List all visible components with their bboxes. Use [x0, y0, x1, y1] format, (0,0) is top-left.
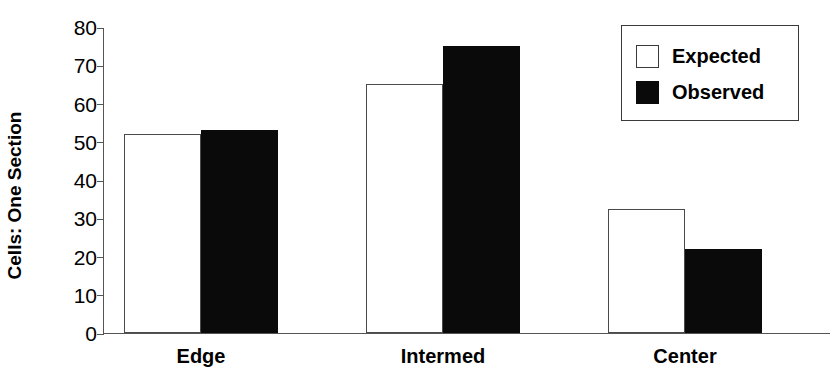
legend-label-expected: Expected [672, 45, 761, 68]
y-axis-tick [97, 257, 104, 258]
y-axis-tick-label: 60 [74, 94, 97, 115]
legend-item-expected: Expected [636, 38, 798, 74]
y-axis-tick [97, 334, 104, 335]
legend-swatch-observed-icon [636, 81, 659, 104]
bar-intermed-observed [443, 46, 520, 333]
bar-center-observed [685, 249, 762, 333]
y-axis-tick-label: 70 [74, 55, 97, 76]
y-axis-tick [97, 66, 104, 67]
legend-swatch-expected-icon [636, 45, 659, 68]
bar-intermed-expected [366, 84, 443, 333]
x-axis-label-intermed: Intermed [366, 345, 520, 368]
y-axis-tick [97, 104, 104, 105]
y-axis-tick-labels: 01020304050607080 [40, 28, 97, 334]
y-axis-tick [97, 295, 104, 296]
y-axis-tick-label: 30 [74, 208, 97, 229]
legend-label-observed: Observed [672, 81, 764, 104]
y-axis-tick-label: 50 [74, 132, 97, 153]
y-axis-tick-label: 10 [74, 285, 97, 306]
y-axis-tick [97, 142, 104, 143]
y-axis-tick [97, 28, 104, 29]
y-axis-tick-label: 80 [74, 17, 97, 38]
legend-item-observed: Observed [636, 74, 798, 110]
y-axis-tick-label: 0 [85, 323, 97, 344]
x-axis-category-labels: EdgeIntermedCenter [103, 345, 830, 379]
y-axis-tick [97, 181, 104, 182]
x-axis-label-edge: Edge [124, 345, 278, 368]
bar-edge-expected [124, 134, 201, 333]
x-axis-label-center: Center [608, 345, 762, 368]
y-axis-tick-label: 40 [74, 170, 97, 191]
y-axis-title: Cells: One Section [0, 0, 30, 391]
bar-center-expected [608, 209, 685, 333]
y-axis-tick [97, 219, 104, 220]
bar-edge-observed [201, 130, 278, 333]
y-axis-tick-label: 20 [74, 247, 97, 268]
legend: Expected Observed [621, 25, 799, 121]
bar-chart: Cells: One Section 01020304050607080 Edg… [0, 0, 837, 391]
